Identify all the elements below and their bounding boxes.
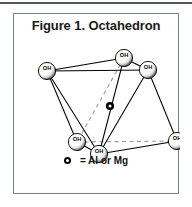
oh-label: OH [144,64,152,70]
oh-sphere-front-left: OH [68,133,85,150]
edge-backleft-frontleft [47,71,77,142]
oh-sphere-right-lower: OH [168,132,180,149]
legend-cation-icon [64,157,71,164]
center-cation-marker [106,102,114,110]
figure-frame: Figure 1. Octahedron [13,13,179,194]
edge-backleft-backtop [47,58,124,71]
legend-label: = Al or Mg [80,155,128,166]
oh-label: OH [120,52,128,58]
oh-sphere-right-upper: OH [139,61,156,78]
oh-label: OH [95,148,103,154]
figure-page: Figure 1. Octahedron [0,0,192,207]
figure-legend: = Al or Mg [14,154,178,166]
oh-label: OH [73,136,81,142]
octahedron-diagram: OH OH OH OH OH OH [14,14,180,195]
oh-label: OH [43,65,51,71]
top-divider-rule [0,2,192,4]
oh-sphere-back-left: OH [38,62,55,79]
edge-rightupper-rightlower [148,70,177,141]
edge-frontlow-rightlower [99,141,177,154]
edge-backleft-rightupper [47,70,148,71]
oh-label: OH [173,135,180,141]
oh-sphere-back-top: OH [115,49,132,66]
